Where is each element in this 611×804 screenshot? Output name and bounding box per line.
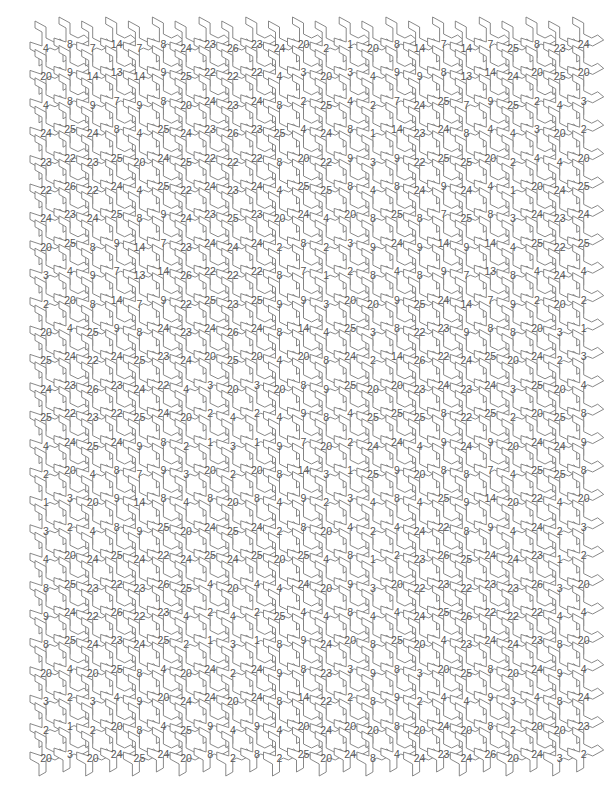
tile-number: 3 [323, 298, 329, 310]
tile-number: 14 [298, 322, 310, 334]
tile-number: 24 [484, 379, 496, 391]
tile-number: 14 [438, 237, 450, 249]
tile-number: 9 [160, 66, 166, 78]
tile-number: 14 [134, 496, 146, 508]
tile-number: 25 [87, 440, 99, 452]
tile-number: 20 [554, 724, 566, 736]
tile-number: 9 [90, 269, 96, 281]
tile-number: 14 [134, 241, 146, 253]
tile-number: 25 [367, 468, 379, 480]
tile-number: 22 [180, 298, 192, 310]
tile-number: 1 [207, 634, 213, 646]
tile-number: 9 [510, 298, 516, 310]
tile-number: 4 [230, 724, 236, 736]
tile-number: 22 [111, 578, 123, 590]
tile-number: 4 [160, 663, 166, 675]
tile-number: 8 [347, 123, 353, 135]
tile-number: 4 [394, 606, 400, 618]
tile-number: 2 [557, 525, 563, 537]
tile-number: 22 [414, 582, 426, 594]
tile-number: 14 [111, 38, 123, 50]
tile-number: 3 [510, 695, 516, 707]
tile-number: 8 [394, 38, 400, 50]
tile-number: 24 [111, 350, 123, 362]
tile-number: 8 [370, 752, 376, 764]
tile-number: 14 [414, 42, 426, 54]
tile-number: 9 [114, 322, 120, 334]
tile-number: 23 [438, 322, 450, 334]
tile-number: 25 [554, 468, 566, 480]
tile-number: 2 [90, 724, 96, 736]
tile-number: 1 [43, 496, 49, 508]
tile-number: 25 [531, 379, 543, 391]
tile-number: 24 [158, 748, 170, 760]
tile-number: 9 [417, 241, 423, 253]
tile-number: 8 [90, 241, 96, 253]
tile-number: 4 [277, 582, 283, 594]
tile-number: 8 [323, 411, 329, 423]
tile-number: 2 [534, 95, 540, 107]
tile-number: 25 [274, 610, 286, 622]
tile-number: 4 [534, 691, 540, 703]
tile-number: 24 [158, 322, 170, 334]
tile-number: 8 [581, 464, 587, 476]
tile-number: 8 [301, 663, 307, 675]
tile-number: 8 [441, 464, 447, 476]
tile-number: 24 [158, 407, 170, 419]
tile-number: 25 [438, 95, 450, 107]
tile-number: 20 [227, 695, 239, 707]
tile-number: 25 [531, 237, 543, 249]
tile-number: 20 [64, 294, 76, 306]
tile-number: 2 [183, 440, 189, 452]
tile-number: 2 [301, 95, 307, 107]
tile-number: 22 [180, 184, 192, 196]
tile-number: 24 [64, 350, 76, 362]
tile-number: 4 [441, 634, 447, 646]
tile-number: 4 [67, 322, 73, 334]
tile-number: 2 [370, 99, 376, 111]
tile-number: 25 [414, 411, 426, 423]
tile-number: 25 [64, 578, 76, 590]
tile-number: 23 [251, 208, 263, 220]
tile-number: 7 [463, 269, 469, 281]
tile-number: 20 [367, 724, 379, 736]
tile-number: 8 [136, 212, 142, 224]
tile-number: 4 [114, 691, 120, 703]
tile-number: 2 [394, 549, 400, 561]
tile-number: 25 [391, 634, 403, 646]
tile-number: 22 [204, 66, 216, 78]
tile-number: 23 [204, 208, 216, 220]
tile-number: 20 [554, 127, 566, 139]
tile-number: 2 [43, 724, 49, 736]
tile-number: 4 [136, 184, 142, 196]
tile-number: 4 [417, 496, 423, 508]
tile-number: 25 [298, 180, 310, 192]
tile-number: 4 [323, 326, 329, 338]
tile-number: 4 [277, 184, 283, 196]
tile-number: 24 [460, 184, 472, 196]
tile-number: 2 [510, 156, 516, 168]
tile-number: 24 [134, 553, 146, 565]
tile-number: 24 [414, 99, 426, 111]
tile-number: 24 [251, 663, 263, 675]
tile-number: 7 [136, 298, 142, 310]
tile-number: 9 [301, 634, 307, 646]
tile-number: 24 [438, 294, 450, 306]
tile-number: 9 [581, 436, 587, 448]
tile-number: 22 [227, 269, 239, 281]
tile-number: 2 [534, 294, 540, 306]
tile-number: 4 [67, 265, 73, 277]
tile-number: 25 [251, 294, 263, 306]
tile-number: 8 [160, 436, 166, 448]
tile-number: 22 [251, 265, 263, 277]
tile-number: 4 [301, 606, 307, 618]
tile-number: 22 [251, 66, 263, 78]
tile-number: 1 [581, 322, 587, 334]
tile-number: 14 [158, 265, 170, 277]
tile-number: 24 [274, 42, 286, 54]
tile-number: 8 [277, 156, 283, 168]
tile-number: 20 [180, 525, 192, 537]
tile-number: 14 [87, 70, 99, 82]
tile-number: 22 [251, 152, 263, 164]
tile-number: 23 [554, 212, 566, 224]
